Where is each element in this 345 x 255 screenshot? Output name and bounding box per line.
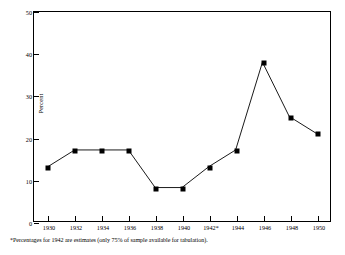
- y-axis-tick-label: 0: [29, 220, 32, 227]
- y-axis-tick: 0: [34, 223, 39, 224]
- y-axis-tick-label: 10: [26, 178, 32, 185]
- data-point-marker: [100, 149, 105, 154]
- x-axis-tick-label: 1932: [70, 224, 82, 231]
- plot-area: Percent 01020304050 19301932193419361938…: [33, 11, 331, 222]
- figure-canvas: Percent 01020304050 19301932193419361938…: [0, 0, 345, 255]
- data-point-marker: [46, 166, 51, 171]
- x-axis-tick-label: 1946: [259, 224, 271, 231]
- data-point-marker: [181, 187, 186, 192]
- x-axis-tick-label: 1944: [232, 224, 244, 231]
- data-point-marker: [208, 166, 213, 171]
- data-point-marker: [127, 149, 132, 154]
- x-axis-tick-label: 1936: [124, 224, 136, 231]
- x-axis-tick-label: 1950: [313, 224, 325, 231]
- chart-footnote: *Percentages for 1942 are estimates (onl…: [10, 236, 208, 244]
- x-axis-tick-label: 1938: [151, 224, 163, 231]
- data-point-marker: [154, 187, 159, 192]
- y-axis-tick-label: 40: [26, 51, 32, 58]
- x-axis-tick-label: 1930: [43, 224, 55, 231]
- data-point-marker: [316, 132, 321, 137]
- y-axis-tick-label: 50: [26, 9, 32, 16]
- x-axis-tick-label: 1948: [286, 224, 298, 231]
- x-axis-tick-label: 1942*: [203, 224, 218, 231]
- y-axis-tick-label: 20: [26, 136, 32, 143]
- x-axis-tick-label: 1934: [97, 224, 109, 231]
- data-point-marker: [235, 149, 240, 154]
- data-point-marker: [262, 60, 267, 65]
- data-point-marker: [73, 149, 78, 154]
- data-point-marker: [289, 115, 294, 120]
- x-axis-tick-label: 1940: [178, 224, 190, 231]
- y-axis-tick-label: 30: [26, 93, 32, 100]
